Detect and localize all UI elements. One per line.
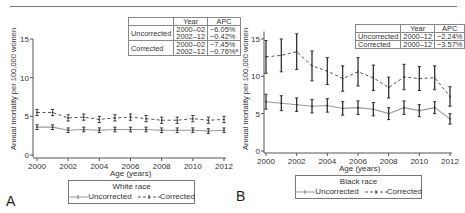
legend-title: Black race xyxy=(296,177,421,187)
apc-group: Uncorrected xyxy=(129,26,174,41)
data-point xyxy=(418,110,420,112)
data-point xyxy=(83,129,85,131)
apc-group: Corrected xyxy=(129,41,174,56)
data-point xyxy=(434,77,436,79)
data-point xyxy=(161,129,163,131)
x-tick-label: 2002 xyxy=(59,162,77,171)
data-point xyxy=(388,113,390,115)
data-point xyxy=(52,126,54,128)
legend-b: Black race Uncorrected Corrected xyxy=(295,175,422,199)
apc-value: −0.76%ᵃ xyxy=(210,48,238,55)
data-point xyxy=(161,119,163,121)
data-point xyxy=(372,108,374,110)
apc-table-b: Year APC Uncorrected 2000–12 −2.24% Corr… xyxy=(355,24,465,49)
legend-label: Uncorrected xyxy=(315,187,359,197)
data-point xyxy=(36,112,38,114)
data-point xyxy=(98,119,100,121)
data-point xyxy=(265,56,267,58)
apc-year: 2002–12 xyxy=(176,48,205,55)
panel-a-white-race: 0510152000200220042006200820102012 Annua… xyxy=(0,0,235,213)
y-tick-label: 10 xyxy=(20,74,29,83)
x-tick-label: 2008 xyxy=(153,162,171,171)
x-tick-label: 2008 xyxy=(380,157,398,166)
data-point xyxy=(176,129,178,131)
y-tick-label: 5 xyxy=(256,110,261,119)
dashed-line-marker-icon xyxy=(138,194,160,200)
x-tick-label: 2004 xyxy=(90,162,108,171)
data-point xyxy=(280,102,282,104)
legend-item-corrected: Corrected xyxy=(365,187,422,197)
legend-label: Corrected xyxy=(387,187,422,197)
y-tick-label: 10 xyxy=(251,72,260,81)
data-point xyxy=(208,119,210,121)
y-tick-label: 15 xyxy=(251,35,260,44)
y-tick-label: 0 xyxy=(25,151,30,160)
data-point xyxy=(223,129,225,131)
legend-a: White race Uncorrected Corrected xyxy=(68,180,195,204)
panel-letter-b: B xyxy=(236,188,245,204)
data-point xyxy=(67,117,69,119)
data-point xyxy=(176,119,178,121)
data-point xyxy=(388,87,390,89)
data-point xyxy=(145,118,147,120)
data-point xyxy=(403,107,405,109)
data-point xyxy=(296,104,298,106)
data-point xyxy=(52,112,54,114)
data-point xyxy=(280,54,282,56)
data-point xyxy=(357,107,359,109)
x-axis-label: Age (years) xyxy=(339,164,380,173)
data-point xyxy=(130,129,132,131)
x-tick-label: 2012 xyxy=(215,162,233,171)
data-point xyxy=(449,96,451,98)
data-point xyxy=(311,105,313,107)
legend-item-corrected: Corrected xyxy=(138,192,195,202)
data-point xyxy=(434,107,436,109)
data-point xyxy=(223,119,225,121)
data-point xyxy=(357,71,359,73)
data-point xyxy=(130,116,132,118)
data-point xyxy=(192,118,194,120)
panel-b-black-race: 0510152000200220042006200820102012 Annua… xyxy=(235,0,465,213)
apc-table-a: Year APC Uncorrected 2000–02 2002–12 −6.… xyxy=(128,17,241,56)
apc-value: −3.57% xyxy=(435,41,465,49)
legend-item-uncorrected: Uncorrected xyxy=(295,187,359,197)
x-tick-label: 2000 xyxy=(257,157,275,166)
solid-line-marker-icon xyxy=(68,194,88,200)
data-point xyxy=(296,51,298,53)
data-point xyxy=(311,65,313,67)
data-point xyxy=(114,129,116,131)
data-point xyxy=(67,129,69,131)
x-tick-label: 2010 xyxy=(410,157,428,166)
data-point xyxy=(265,101,267,103)
x-tick-label: 2002 xyxy=(288,157,306,166)
data-point xyxy=(98,129,100,131)
legend-label: Corrected xyxy=(160,192,195,202)
x-tick-label: 2004 xyxy=(318,157,336,166)
data-point xyxy=(403,76,405,78)
data-point xyxy=(342,108,344,110)
x-tick-label: 2000 xyxy=(28,162,46,171)
legend-title: White race xyxy=(69,182,194,192)
data-point xyxy=(326,70,328,72)
dashed-line-marker-icon xyxy=(365,189,387,195)
apc-header-blank xyxy=(129,18,174,26)
data-point xyxy=(208,130,210,132)
data-point xyxy=(36,126,38,128)
apc-year: 2002–12 xyxy=(176,33,205,40)
legend-label: Uncorrected xyxy=(88,192,132,202)
x-tick-label: 2012 xyxy=(441,157,459,166)
y-axis-label: Annual mortality per 100,000 women xyxy=(9,28,18,150)
panel-letter-a: A xyxy=(6,193,15,209)
data-point xyxy=(114,117,116,119)
y-tick-label: 0 xyxy=(256,147,261,156)
y-tick-label: 5 xyxy=(25,112,30,121)
solid-line-marker-icon xyxy=(295,189,315,195)
x-axis-label: Age (years) xyxy=(110,169,151,178)
data-point xyxy=(145,129,147,131)
data-point xyxy=(418,78,420,80)
data-point xyxy=(372,77,374,79)
data-point xyxy=(342,78,344,80)
y-tick-label: 15 xyxy=(20,35,29,44)
apc-value: −0.42% xyxy=(210,33,238,40)
apc-years: 2000–02 2002–12 xyxy=(174,26,208,41)
